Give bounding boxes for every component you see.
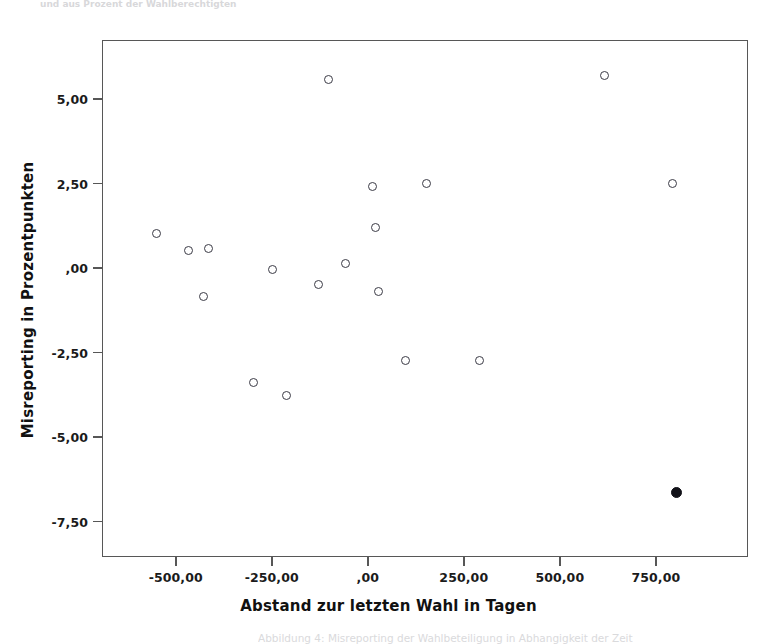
data-point: [475, 356, 484, 365]
y-axis-tick: [93, 352, 102, 354]
x-axis-tick-label: -500,00: [149, 570, 203, 585]
y-axis-tick: [93, 436, 102, 438]
data-point: [371, 223, 380, 232]
x-axis-tick: [175, 557, 177, 566]
data-point: [341, 259, 350, 268]
data-point: [152, 229, 161, 238]
y-axis-tick-label: 2,50: [36, 176, 88, 191]
x-axis-tick: [367, 557, 369, 566]
data-point: [324, 75, 333, 84]
x-axis-tick-label: 500,00: [535, 570, 584, 585]
data-point: [600, 71, 609, 80]
x-axis-tick-label: ,00: [357, 570, 379, 585]
y-axis-tick-label: 5,00: [36, 92, 88, 107]
x-axis-tick: [655, 557, 657, 566]
x-axis-tick-label: 750,00: [631, 570, 680, 585]
x-axis-tick: [463, 557, 465, 566]
x-axis-tick-label: 250,00: [439, 570, 488, 585]
data-point: [184, 246, 193, 255]
data-point: [314, 280, 323, 289]
y-axis-title: Misreporting in Prozentpunkten: [19, 160, 37, 440]
plot-area: [102, 40, 748, 557]
y-axis-tick-label: -7,50: [36, 514, 88, 529]
y-axis-tick-label: ,00: [36, 261, 88, 276]
data-point: [374, 287, 383, 296]
x-axis-tick: [271, 557, 273, 566]
y-axis-tick: [93, 267, 102, 269]
bottom-caption-text: Abbildung 4: Misreporting der Wahlbeteil…: [258, 632, 763, 644]
data-point: [204, 244, 213, 253]
y-axis-tick: [93, 521, 102, 523]
data-point: [268, 265, 277, 274]
x-axis-title: Abstand zur letzten Wahl in Tagen: [0, 597, 777, 615]
x-axis-tick: [559, 557, 561, 566]
y-axis-tick-label: -2,50: [36, 345, 88, 360]
y-axis-tick: [93, 98, 102, 100]
data-point: [199, 292, 208, 301]
data-point: [671, 487, 682, 498]
data-point: [368, 182, 377, 191]
y-axis-tick: [93, 183, 102, 185]
data-point: [401, 356, 410, 365]
data-point: [422, 179, 431, 188]
data-points-layer: [103, 41, 747, 556]
top-caption-text: und aus Prozent der Wahlberechtigten: [40, 0, 460, 9]
data-point: [282, 391, 291, 400]
data-point: [668, 179, 677, 188]
x-axis-tick-label: -250,00: [245, 570, 299, 585]
scatter-plot-figure: und aus Prozent der Wahlberechtigten -50…: [0, 0, 777, 644]
y-axis-tick-label: -5,00: [36, 430, 88, 445]
data-point: [249, 378, 258, 387]
